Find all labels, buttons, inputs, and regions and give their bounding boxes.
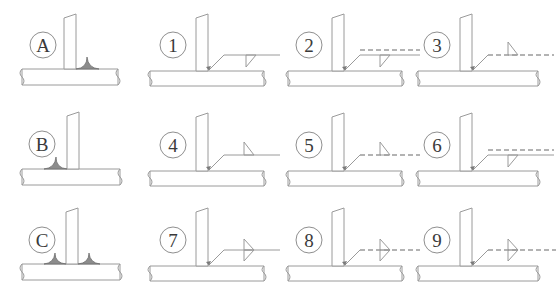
fillet-triangle-below: [246, 55, 256, 67]
vertical-plate: [332, 14, 344, 71]
label-3-circle: 3: [424, 32, 450, 58]
cell-A: A: [0, 0, 140, 99]
leader-line: [470, 250, 488, 266]
fillet-triangle-below: [244, 250, 254, 261]
leader-line: [206, 250, 224, 266]
cell-7: 7: [140, 198, 280, 297]
label-4-circle: 4: [160, 132, 186, 158]
vertical-plate: [332, 113, 344, 171]
cell-9: 9: [410, 198, 560, 297]
fillet-triangle-below: [380, 250, 390, 261]
label-9-circle: 9: [424, 227, 450, 253]
fillet-triangle-above: [380, 142, 390, 155]
cell-5: 5: [280, 99, 420, 198]
base-plate: [286, 266, 404, 281]
label-8-circle: 8: [296, 227, 322, 253]
vertical-plate: [196, 208, 208, 266]
label-2-text: 2: [304, 35, 314, 56]
base-plate: [20, 264, 122, 280]
base-plate: [416, 71, 540, 86]
vertical-plate: [460, 14, 472, 71]
label-4-text: 4: [168, 135, 178, 156]
base-plate: [286, 171, 404, 186]
base-plate: [148, 171, 266, 186]
base-plate: [148, 266, 266, 281]
label-8-text: 8: [304, 230, 314, 251]
label-A-circle: A: [30, 32, 56, 58]
vertical-plate: [460, 208, 472, 266]
cell-3: 3: [410, 0, 560, 99]
leader-line: [342, 155, 360, 171]
fillet-triangle-below: [508, 250, 518, 261]
base-plate: [20, 69, 120, 85]
base-plate: [416, 266, 540, 281]
label-3-text: 3: [432, 35, 442, 56]
label-7-circle: 7: [160, 227, 186, 253]
leader-line: [470, 155, 488, 171]
base-plate: [20, 169, 122, 185]
leader-line: [206, 155, 224, 171]
label-1-text: 1: [168, 35, 178, 56]
cell-C: C: [0, 198, 140, 297]
fillet-weld-right: [76, 57, 99, 69]
base-plate: [148, 71, 266, 86]
label-B-circle: B: [29, 131, 55, 157]
cell-4: 4: [140, 99, 280, 198]
leader-line: [342, 250, 360, 266]
cell-6: 6: [410, 99, 560, 198]
cell-8: 8: [280, 198, 420, 297]
vertical-plate: [460, 113, 472, 171]
label-5-circle: 5: [296, 132, 322, 158]
leader-line: [206, 55, 224, 71]
label-1-circle: 1: [160, 32, 186, 58]
label-6-circle: 6: [424, 132, 450, 158]
welding-symbol-chart: A 1: [0, 0, 560, 297]
cell-1: 1: [140, 0, 280, 99]
cell-B: B: [0, 99, 140, 198]
fillet-triangle-above: [244, 239, 254, 250]
label-5-text: 5: [304, 135, 314, 156]
base-plate: [286, 71, 404, 86]
fillet-triangle-above: [508, 239, 518, 250]
leader-line: [342, 55, 360, 71]
fillet-weld-left: [44, 253, 66, 264]
label-7-text: 7: [168, 230, 178, 251]
cell-2: 2: [280, 0, 420, 99]
vertical-plate: [196, 14, 208, 71]
fillet-weld-left: [44, 157, 67, 169]
label-C-circle: C: [29, 227, 55, 253]
fillet-triangle-above: [380, 239, 390, 250]
label-B-text: B: [36, 134, 49, 155]
label-2-circle: 2: [296, 32, 322, 58]
label-C-text: C: [36, 230, 49, 251]
vertical-plate: [67, 112, 79, 169]
label-6-text: 6: [432, 135, 442, 156]
vertical-plate: [196, 113, 208, 171]
fillet-triangle-below: [380, 55, 390, 67]
fillet-weld-right: [78, 253, 100, 264]
fillet-triangle-above: [244, 142, 254, 155]
fillet-triangle-below: [508, 155, 518, 167]
vertical-plate: [66, 208, 78, 264]
label-A-text: A: [36, 35, 50, 56]
base-plate: [416, 171, 540, 186]
fillet-triangle-above: [508, 42, 518, 55]
leader-line: [470, 55, 488, 71]
label-9-text: 9: [432, 230, 442, 251]
vertical-plate: [64, 14, 76, 69]
vertical-plate: [332, 208, 344, 266]
